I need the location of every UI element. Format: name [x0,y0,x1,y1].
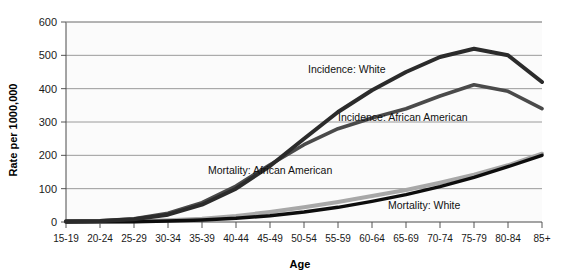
x-tick-label: 55-59 [325,233,351,244]
x-tick-label: 70-74 [427,233,453,244]
y-tick-label: 0 [51,216,57,228]
x-tick-label: 60-64 [359,233,385,244]
y-tick-label: 300 [39,116,57,128]
line-chart: 0100200300400500600 15-1920-2425-2930-34… [0,0,572,274]
x-axis-title: Age [290,258,311,270]
x-tick-label: 65-69 [393,233,419,244]
x-tick-label: 30-34 [155,233,181,244]
y-tick-label: 100 [39,183,57,195]
series-label: Mortality: African American [208,164,332,176]
x-tick-label: 80-84 [495,233,521,244]
y-axis-title: Rate per 1000,000 [7,84,19,177]
x-tick-label: 45-49 [257,233,283,244]
x-tick-label: 85+ [534,233,551,244]
x-tick-label: 40-44 [223,233,249,244]
series-label: Mortality: White [388,199,461,211]
x-tick-label: 50-54 [291,233,317,244]
y-tick-label: 400 [39,83,57,95]
series-label: Incidence: White [308,63,386,75]
x-tick-label: 20-24 [87,233,113,244]
series-label: Incidence: African American [338,111,468,123]
x-tick-label: 25-29 [121,233,147,244]
y-tick-label: 500 [39,49,57,61]
x-tick-label: 75-79 [461,233,487,244]
x-tick-label: 15-19 [53,233,79,244]
y-tick-label: 600 [39,16,57,28]
chart-container: 0100200300400500600 15-1920-2425-2930-34… [0,0,572,274]
y-tick-label: 200 [39,149,57,161]
x-tick-label: 35-39 [189,233,215,244]
